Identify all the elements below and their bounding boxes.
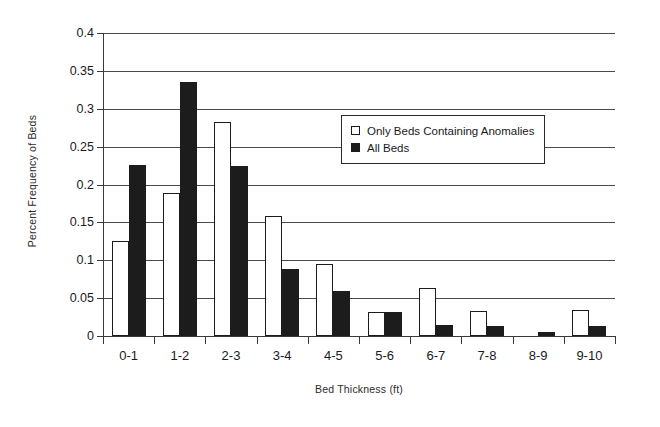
legend-label-series-0: Only Beds Containing Anomalies [367,125,535,137]
gridline [103,33,615,34]
x-tick-mark [359,336,360,344]
y-tick-mark [97,260,104,261]
y-tick-mark [97,109,104,110]
legend-swatch-icon-series-0 [351,126,360,135]
bar [419,288,436,336]
bar [231,166,248,336]
x-tick-label: 7-8 [478,348,497,363]
y-tick-mark [97,185,104,186]
bar [572,310,589,336]
y-tick-mark [97,71,104,72]
y-tick-label: 0.35 [70,64,94,78]
x-tick-mark [410,336,411,344]
bar [265,216,282,336]
bar [282,269,299,336]
x-tick-mark [615,336,616,344]
x-tick-label: 4-5 [324,348,343,363]
x-tick-mark [154,336,155,344]
y-axis-title: Percent Frequency of Beds [26,71,38,291]
chart-legend: Only Beds Containing Anomalies All Beds [341,115,545,164]
y-tick-mark [97,222,104,223]
bar [214,122,231,336]
bar-chart: Percent Frequency of Beds Bed Thickness … [0,0,660,427]
bar [180,82,197,336]
bar [385,312,402,336]
legend-swatch-icon-series-1 [351,143,360,152]
y-tick-label: 0 [87,329,94,343]
x-tick-mark [205,336,206,344]
x-tick-label: 8-9 [529,348,548,363]
x-tick-label: 6-7 [426,348,445,363]
bar [589,326,606,336]
x-tick-mark [257,336,258,344]
bar [333,291,350,336]
bar [129,165,146,336]
y-tick-mark [97,147,104,148]
x-tick-mark [103,336,104,344]
bar [112,241,129,336]
legend-item-all-beds: All Beds [351,139,535,156]
x-tick-mark [564,336,565,344]
x-tick-label: 5-6 [375,348,394,363]
y-tick-label: 0.05 [70,291,94,305]
x-tick-label: 0-1 [119,348,138,363]
bar [163,193,180,336]
y-tick-label: 0.1 [77,253,94,267]
bar [316,264,333,336]
y-tick-label: 0.2 [77,178,94,192]
y-tick-label: 0.4 [77,26,94,40]
bar [470,311,487,336]
x-tick-label: 9-10 [576,348,602,363]
y-tick-mark [97,33,104,34]
gridline [103,71,615,72]
y-tick-label: 0.25 [70,140,94,154]
x-tick-mark [308,336,309,344]
legend-item-only-beds-containing-anomalies: Only Beds Containing Anomalies [351,122,535,139]
x-tick-mark [513,336,514,344]
bar [368,312,385,336]
x-tick-label: 1-2 [170,348,189,363]
plot-area: 00.050.10.150.20.250.30.350.4 0-11-22-33… [103,33,615,336]
y-tick-label: 0.3 [77,102,94,116]
y-tick-label: 0.15 [70,215,94,229]
bar [487,326,504,336]
x-tick-mark [461,336,462,344]
bar [538,332,555,336]
bar [436,325,453,336]
y-tick-mark [97,298,104,299]
legend-label-series-1: All Beds [367,142,409,154]
x-tick-label: 3-4 [273,348,292,363]
x-tick-label: 2-3 [222,348,241,363]
x-axis-title: Bed Thickness (ft) [103,383,615,395]
